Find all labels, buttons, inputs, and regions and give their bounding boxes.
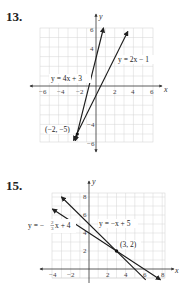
svg-text:4: 4: [90, 45, 94, 53]
chart-15-y-label: y: [91, 177, 96, 186]
svg-text:4: 4: [131, 88, 135, 96]
chart-13-label-line2: y = 2x − 1: [118, 55, 149, 64]
svg-text:−2: −2: [67, 271, 75, 279]
svg-text:y = −: y = −: [28, 221, 44, 230]
chart-13-intersection-label: (−2, −5): [45, 125, 70, 134]
chart-15-intersection-point: [115, 249, 118, 252]
svg-text:−6: −6: [87, 140, 95, 148]
svg-text:2: 2: [83, 247, 87, 255]
chart-15: x y −4 −2 2 4 6 8 8 6 4 2 y = −x + 5 y =…: [26, 177, 179, 283]
svg-text:8: 8: [83, 193, 87, 201]
svg-text:−4: −4: [87, 121, 95, 129]
chart-13-intersection-point: [76, 132, 79, 135]
svg-text:−4: −4: [57, 88, 65, 96]
chart-15-label-line1: y = −x + 5: [99, 219, 131, 228]
svg-text:2: 2: [113, 88, 117, 96]
svg-text:2: 2: [106, 271, 110, 279]
chart-15-line-y-neg-x-plus-5: [62, 197, 146, 280]
chart-15-x-label: x: [174, 266, 179, 275]
svg-text:8: 8: [161, 271, 165, 279]
svg-text:6: 6: [150, 88, 154, 96]
svg-text:−6: −6: [39, 88, 47, 96]
chart-13-y-ticks: 6 4 −4 −6: [87, 26, 95, 148]
svg-text:x + 4: x + 4: [55, 221, 71, 230]
chart-15-intersection-label: (3, 2): [120, 240, 137, 249]
svg-text:−4: −4: [49, 271, 57, 279]
chart-13-y-label: y: [98, 12, 103, 21]
graphs-canvas: x y −6 −4 −2 2 4 6 6 4 −4 −6 y = 4x + 3 …: [0, 0, 180, 283]
chart-13: x y −6 −4 −2 2 4 6 6 4 −4 −6 y = 4x + 3 …: [30, 12, 168, 152]
chart-13-x-label: x: [163, 85, 168, 94]
svg-text:−2: −2: [76, 88, 84, 96]
svg-text:6: 6: [83, 211, 87, 219]
svg-text:6: 6: [90, 26, 94, 34]
chart-15-grid: [52, 193, 165, 278]
svg-text:4: 4: [124, 271, 128, 279]
chart-13-label-line1: y = 4x + 3: [51, 74, 82, 83]
